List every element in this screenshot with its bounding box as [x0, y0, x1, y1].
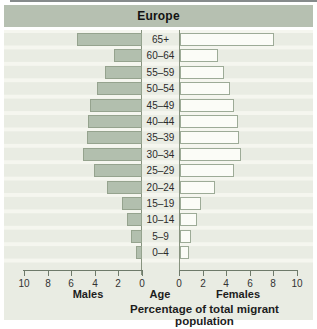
plot-area: 65+60–6455–5950–5445–4940–4435–3930–3425…	[4, 30, 313, 320]
male-bar	[136, 246, 142, 259]
age-group-label: 30–34	[142, 148, 179, 161]
male-bar	[87, 131, 142, 144]
axis-tick	[118, 270, 119, 276]
male-bar	[97, 82, 142, 95]
axis-tick	[250, 270, 251, 276]
male-bar	[90, 99, 142, 112]
male-bar	[94, 164, 142, 177]
axis-tick	[203, 270, 204, 276]
age-group-label: 50–54	[142, 82, 179, 95]
female-bar	[180, 148, 241, 161]
female-bar	[180, 131, 239, 144]
axis-tick	[273, 270, 274, 276]
age-group-label: 25–29	[142, 164, 179, 177]
female-bar	[180, 246, 189, 259]
male-bar	[83, 148, 142, 161]
male-bar	[107, 181, 142, 194]
x-axis-caption: Percentage of total migrant population	[102, 303, 307, 327]
axis-tick	[24, 270, 25, 276]
axis-tick	[142, 270, 143, 276]
female-x-axis-line	[179, 270, 298, 271]
axis-tick	[48, 270, 49, 276]
page: Europe 65+60–6455–5950–5445–4940–4435–39…	[0, 0, 317, 329]
male-bar	[88, 115, 142, 128]
age-group-label: 45–49	[142, 99, 179, 112]
female-bar	[180, 82, 230, 95]
females-axis-label: Females	[179, 288, 297, 300]
male-bar	[77, 33, 142, 46]
males-axis-label: Males	[29, 288, 147, 300]
male-bar	[127, 213, 142, 226]
age-group-label: 10–14	[142, 213, 179, 226]
age-group-label: 55–59	[142, 66, 179, 79]
female-bar	[180, 49, 218, 62]
age-group-label: 65+	[142, 33, 179, 46]
axis-tick	[226, 270, 227, 276]
male-bar	[122, 197, 142, 210]
female-bar	[180, 33, 274, 46]
axis-tick	[297, 270, 298, 276]
age-group-label: 0–4	[142, 246, 179, 259]
male-bar	[105, 66, 142, 79]
age-axis-label: Age	[141, 288, 179, 300]
age-group-label: 40–44	[142, 115, 179, 128]
chart-title: Europe	[137, 9, 180, 23]
age-group-label: 60–64	[142, 49, 179, 62]
axis-tick	[95, 270, 96, 276]
page-top-edge-line	[10, 0, 317, 2]
female-bar	[180, 66, 224, 79]
male-x-axis-line	[23, 270, 142, 271]
female-bar	[180, 213, 197, 226]
population-pyramid-figure: Europe 65+60–6455–5950–5445–4940–4435–39…	[4, 4, 313, 320]
female-bar	[180, 164, 234, 177]
female-bar	[180, 230, 191, 243]
chart-title-bar: Europe	[4, 5, 313, 27]
female-bar	[180, 115, 238, 128]
age-group-label: 35–39	[142, 131, 179, 144]
female-bar	[180, 197, 201, 210]
age-group-label: 15–19	[142, 197, 179, 210]
axis-tick	[71, 270, 72, 276]
female-bar	[180, 99, 234, 112]
axis-tick	[179, 270, 180, 276]
male-bar	[114, 49, 142, 62]
age-group-label: 5–9	[142, 230, 179, 243]
age-group-label: 20–24	[142, 181, 179, 194]
male-bar	[131, 230, 142, 243]
female-bar	[180, 181, 215, 194]
